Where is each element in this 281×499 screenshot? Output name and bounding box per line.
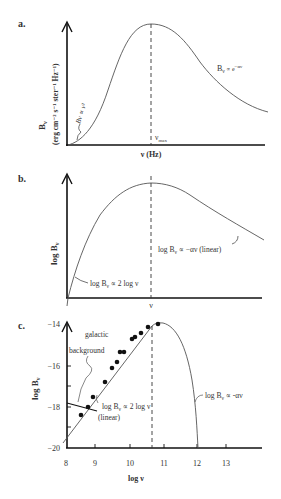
panel-a-label: a. bbox=[18, 18, 26, 29]
rayleigh-jeans-label: Bν ∝ ν² bbox=[74, 101, 88, 124]
fit-annotation-linear: (linear) bbox=[98, 413, 121, 422]
svg-text:8: 8 bbox=[64, 459, 68, 468]
fit-line bbox=[63, 326, 152, 443]
high-freq-annotation: log Bν ∝ −αν (linear) bbox=[158, 245, 222, 255]
low-freq-annotation: log Bν ∝ 2 log ν bbox=[90, 279, 139, 289]
blackbody-curve bbox=[68, 24, 268, 145]
x-label: log ν bbox=[128, 474, 144, 483]
svg-text:12: 12 bbox=[193, 459, 201, 468]
low-pointer bbox=[75, 277, 88, 283]
panel-b: b. log Bν ν log Bν ∝ 2 log ν log Bν ∝ −α… bbox=[18, 173, 264, 310]
wien-curve bbox=[152, 323, 198, 448]
figure: a. Bν (erg cm⁻² s⁻¹ ster⁻¹ Hz⁻¹) Bν ∝ ν²… bbox=[0, 0, 281, 499]
x-tick-labels: 8 9 10 11 12 13 bbox=[64, 459, 230, 468]
nu-max-label: νmax bbox=[155, 133, 168, 143]
panel-b-label: b. bbox=[18, 173, 27, 184]
galactic-label: galactic bbox=[85, 330, 109, 339]
wien-annotation: log Bν ∝ -αν bbox=[205, 391, 243, 401]
y-label: log Bν bbox=[49, 242, 60, 265]
svg-text:−20: −20 bbox=[47, 444, 60, 453]
y-label: log Bν bbox=[30, 377, 41, 400]
x-label: ν (Hz) bbox=[140, 150, 162, 159]
svg-text:−16: −16 bbox=[47, 362, 60, 371]
fit-pointer bbox=[96, 395, 98, 403]
wien-label: Bν ∝ e−αν bbox=[217, 64, 243, 74]
x-label: ν bbox=[149, 301, 153, 310]
svg-text:11: 11 bbox=[160, 459, 168, 468]
panel-c: c. −14 −16 −18 −20 8 9 10 11 bbox=[18, 320, 262, 483]
svg-text:9: 9 bbox=[93, 459, 97, 468]
rj-pointer bbox=[77, 124, 81, 140]
galactic-pointer bbox=[78, 356, 92, 402]
wien-pointer bbox=[195, 395, 203, 402]
y-tick-labels: −14 −16 −18 −20 bbox=[47, 320, 60, 453]
svg-text:−14: −14 bbox=[47, 320, 60, 329]
background-label: background bbox=[69, 346, 105, 355]
svg-text:−18: −18 bbox=[47, 403, 60, 412]
panel-a: a. Bν (erg cm⁻² s⁻¹ ster⁻¹ Hz⁻¹) Bν ∝ ν²… bbox=[18, 18, 268, 159]
svg-text:10: 10 bbox=[126, 459, 134, 468]
y-label-main: Bν bbox=[37, 121, 48, 130]
high-pointer bbox=[232, 236, 238, 244]
panel-c-label: c. bbox=[18, 320, 25, 331]
svg-text:13: 13 bbox=[222, 459, 230, 468]
y-label-units: (erg cm⁻² s⁻¹ ster⁻¹ Hz⁻¹) bbox=[51, 63, 60, 145]
fit-annotation: log Bν ∝ 2 log ν bbox=[102, 402, 151, 412]
